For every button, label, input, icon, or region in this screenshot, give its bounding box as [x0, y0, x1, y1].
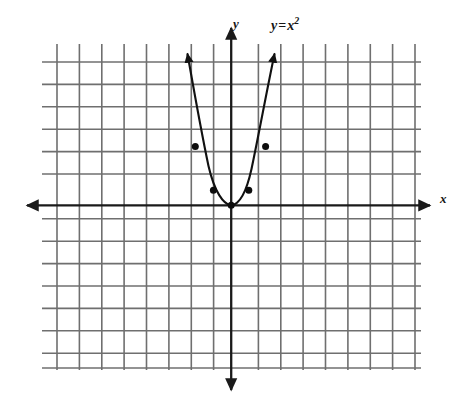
point-left-outer: [192, 143, 199, 150]
coordinate-plane: [0, 0, 464, 399]
equation-operator: =: [277, 18, 287, 33]
x-axis-label: x: [440, 192, 447, 205]
point-vertex: [228, 202, 235, 209]
equation-label: y=x2: [271, 16, 299, 33]
point-right-outer: [262, 143, 269, 150]
point-left-inner: [210, 187, 217, 194]
graph-figure: y x y=x2: [0, 0, 464, 399]
point-right-inner: [245, 187, 252, 194]
y-axis-label: y: [233, 17, 239, 30]
equation-exponent: 2: [294, 15, 299, 26]
